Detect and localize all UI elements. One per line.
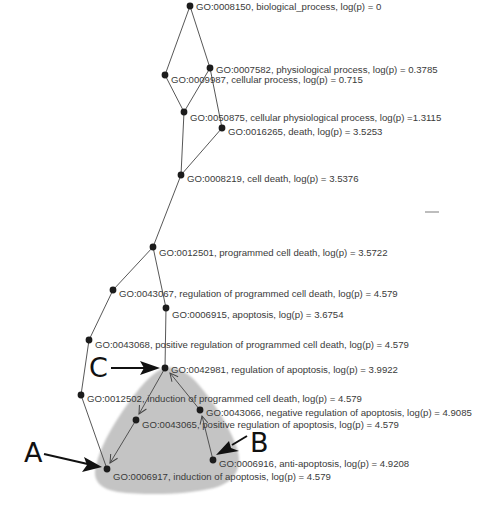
node-label: GO:0016265, death, log(p) = 3.5253 bbox=[228, 126, 382, 137]
graph-node[interactable] bbox=[178, 172, 185, 179]
node-label: GO:0008150, biological_process, log(p) =… bbox=[196, 1, 381, 12]
node-label: GO:0043065, positive regulation of apopt… bbox=[142, 419, 399, 430]
graph-node[interactable] bbox=[78, 392, 85, 399]
graph-node[interactable] bbox=[104, 466, 111, 473]
node-label: GO:0008219, cell death, log(p) = 3.5376 bbox=[187, 173, 358, 184]
edge bbox=[181, 112, 184, 175]
node-label: GO:0006916, anti-apoptosis, log(p) = 4.9… bbox=[219, 458, 409, 469]
node-label: GO:0012502, induction of programmed cell… bbox=[87, 393, 362, 404]
node-label: GO:0043066, negative regulation of apopt… bbox=[206, 407, 472, 418]
edge bbox=[153, 175, 181, 247]
graph-node[interactable] bbox=[219, 125, 226, 132]
node-label: GO:0012501, programmed cell death, log(p… bbox=[159, 247, 388, 258]
graph-node[interactable] bbox=[207, 65, 214, 72]
node-label: GO:0050875, cellular physiological proce… bbox=[190, 112, 441, 123]
edge bbox=[89, 290, 113, 340]
graph-node[interactable] bbox=[162, 365, 169, 372]
edge bbox=[81, 340, 89, 395]
node-label: GO:0043068, positive regulation of progr… bbox=[95, 339, 409, 350]
graph-node[interactable] bbox=[110, 287, 117, 294]
graph-node[interactable] bbox=[187, 3, 194, 10]
graph-node[interactable] bbox=[210, 457, 217, 464]
callout-letter-a: A bbox=[24, 437, 43, 468]
graph-node[interactable] bbox=[163, 305, 170, 312]
graph-node[interactable] bbox=[133, 417, 140, 424]
go-term-graph: GO:0008150, biological_process, log(p) =… bbox=[0, 0, 498, 513]
graph-node[interactable] bbox=[181, 109, 188, 116]
edge bbox=[165, 308, 166, 368]
graph-node[interactable] bbox=[162, 72, 169, 79]
node-label: GO:0006917, induction of apoptosis, log(… bbox=[113, 471, 331, 482]
node-label: GO:0009987, cellular process, log(p) = 0… bbox=[171, 74, 363, 85]
node-label: GO:0006915, apoptosis, log(p) = 3.6754 bbox=[172, 309, 344, 320]
callout-letter-b: B bbox=[250, 427, 269, 458]
graph-node[interactable] bbox=[150, 244, 157, 251]
callout-arrow-a bbox=[44, 454, 92, 465]
graph-node[interactable] bbox=[86, 337, 93, 344]
edge bbox=[113, 247, 153, 290]
edge bbox=[190, 6, 210, 68]
graph-node[interactable] bbox=[197, 407, 204, 414]
edge bbox=[181, 128, 222, 175]
node-label: GO:0043067, regulation of programmed cel… bbox=[119, 288, 398, 299]
stray-mark bbox=[425, 211, 439, 213]
node-label: GO:0042981, regulation of apoptosis, log… bbox=[171, 364, 398, 375]
callout-arrow-b bbox=[232, 436, 247, 445]
edge bbox=[165, 6, 190, 75]
callout-letter-c: C bbox=[89, 352, 108, 383]
